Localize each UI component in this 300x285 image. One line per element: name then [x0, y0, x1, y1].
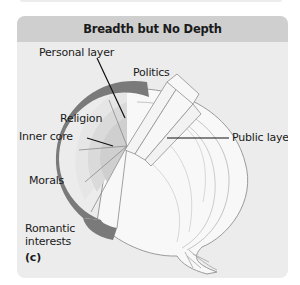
panel-title: Breadth but No Depth [83, 22, 222, 36]
panel-identifier: (c) [25, 252, 41, 264]
label-public-layer: Public layer [232, 132, 288, 144]
diagram-panel: Breadth but No Depth [17, 16, 288, 278]
label-romantic-interests: Romantic interests [25, 222, 85, 248]
label-religion: Religion [60, 113, 102, 125]
onion-figure: Personal layer Politics Religion Inner c… [17, 42, 288, 278]
label-politics: Politics [133, 67, 170, 79]
label-morals: Morals [29, 175, 64, 187]
top-divider [20, 0, 282, 2]
label-inner-core: Inner core [19, 131, 73, 143]
label-personal-layer: Personal layer [39, 47, 114, 59]
panel-header: Breadth but No Depth [17, 16, 288, 42]
